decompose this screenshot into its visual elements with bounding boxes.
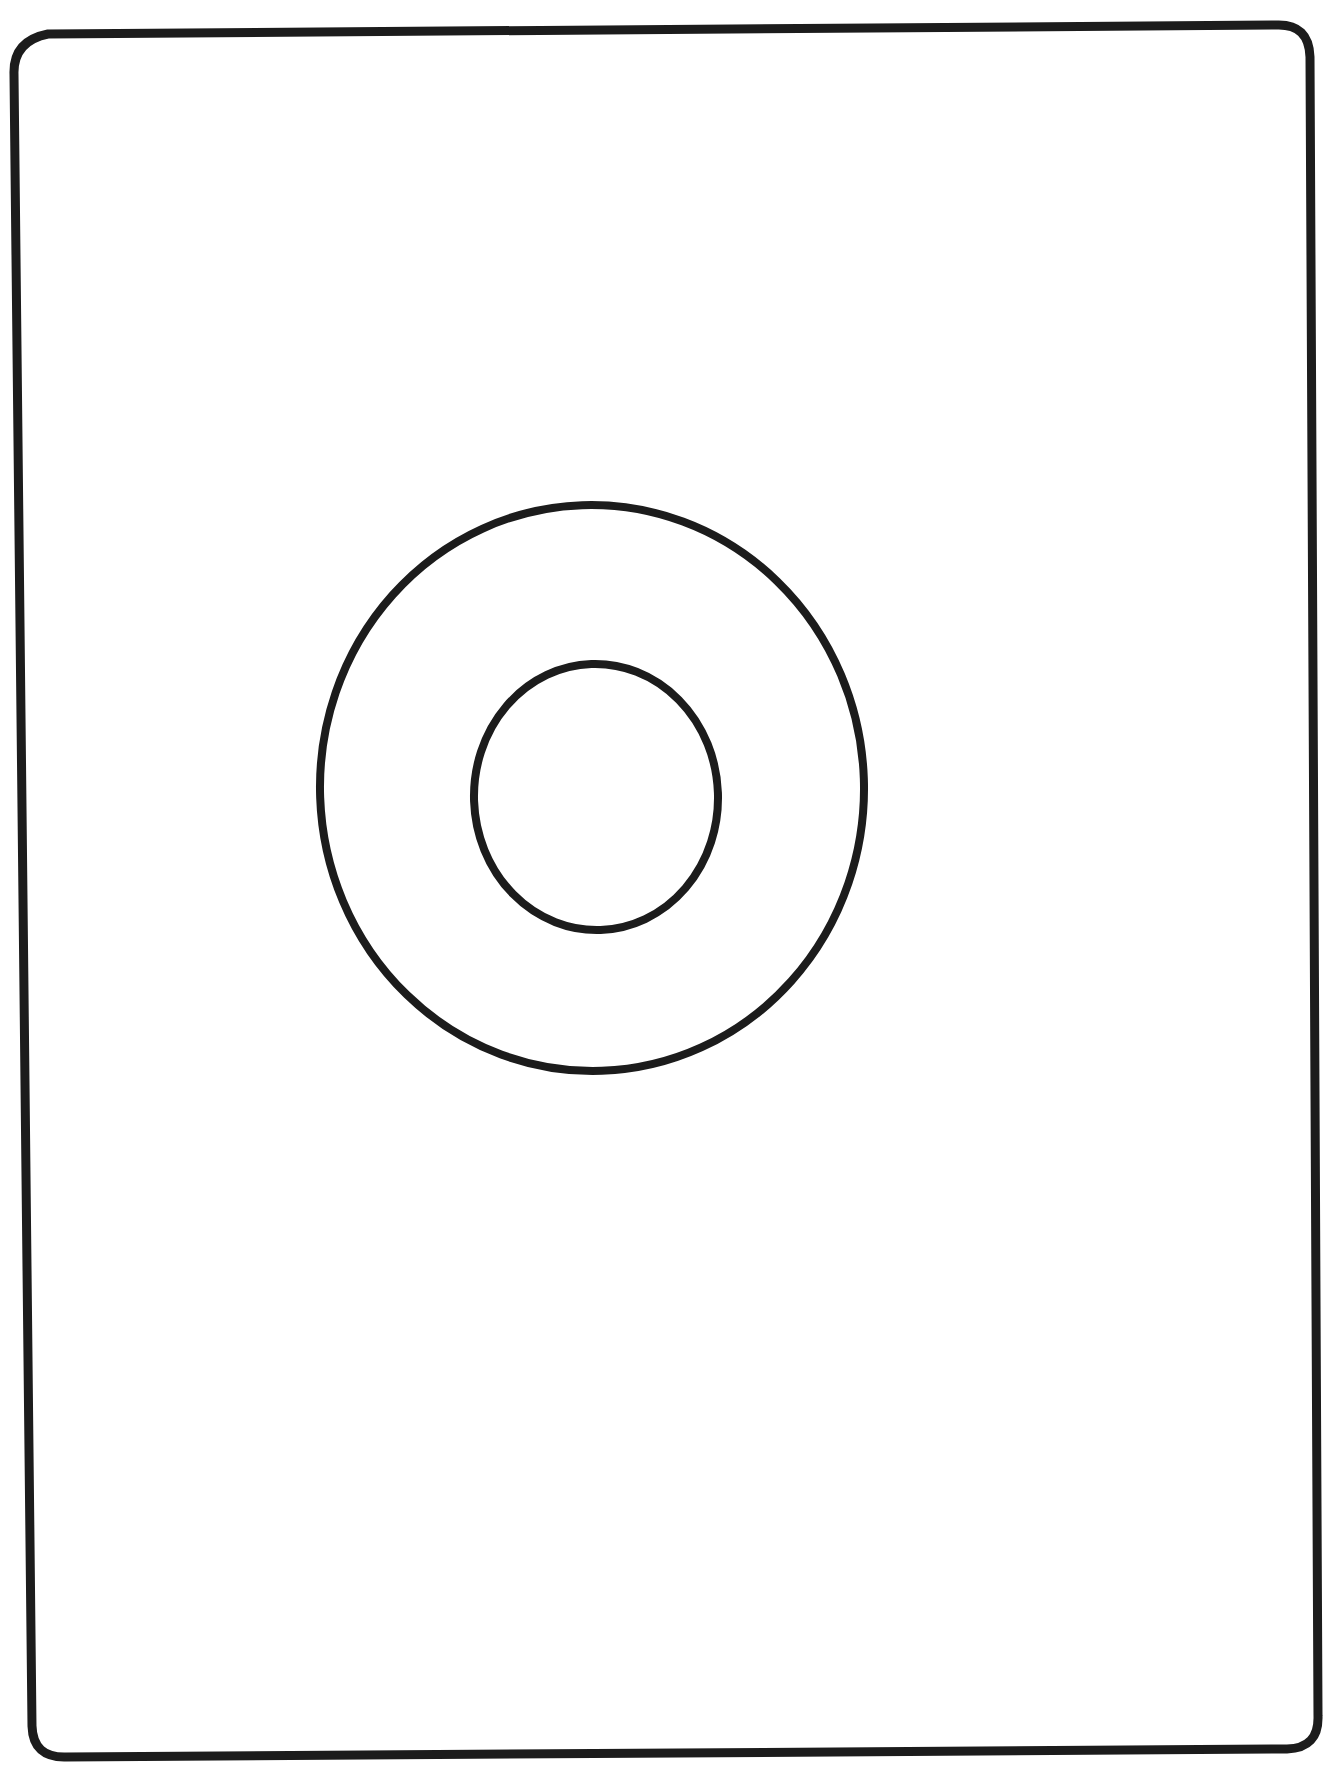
paper-background [0, 0, 1341, 1768]
page-canvas [0, 0, 1341, 1768]
line-drawing-artboard [0, 0, 1341, 1768]
